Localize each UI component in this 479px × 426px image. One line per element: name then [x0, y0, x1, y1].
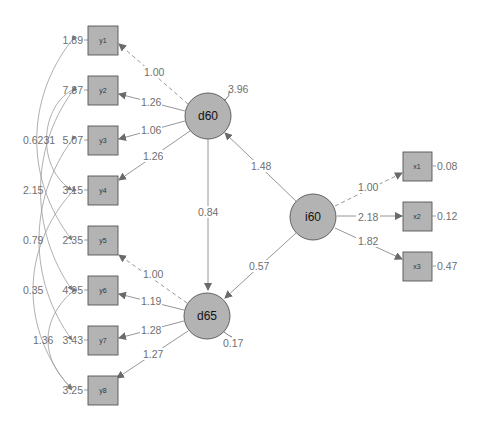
- loading-i60-x1: 1.00: [358, 181, 379, 193]
- cov-label-overlap: 0.6231: [23, 134, 55, 146]
- node-label-y8: y8: [99, 387, 107, 395]
- node-label-y6: y6: [99, 287, 107, 295]
- residual-y6: 4.95: [63, 284, 84, 296]
- node-label-y5: y5: [99, 237, 107, 245]
- cov-label-y4-y8: 0.35: [23, 284, 44, 296]
- sem-path-diagram: 0.6231 2.15 0.79 0.35 1.36 1.89 7.37 5.0…: [0, 0, 479, 426]
- loading-d65-y5: 1.00: [143, 268, 164, 280]
- residual-x1: 0.08: [437, 160, 458, 172]
- loading-d60-y3: 1.06: [141, 124, 162, 136]
- observed-left-nodes: [88, 26, 118, 405]
- node-label-x2: x2: [413, 213, 421, 220]
- node-label-x1: x1: [413, 163, 421, 170]
- node-label-d65: d65: [197, 309, 217, 323]
- node-label-y2: y2: [99, 87, 107, 95]
- cov-label-y2-y6: 2.15: [23, 184, 44, 196]
- loading-d60-y1: 1.00: [144, 66, 165, 78]
- loading-d60-y4: 1.26: [143, 150, 164, 162]
- residual-y5: 2.35: [63, 234, 84, 246]
- residual-y3: 5.07: [63, 134, 84, 146]
- structural-edges: [208, 133, 296, 298]
- residual-y2: 7.37: [63, 84, 84, 96]
- node-label-y7: y7: [99, 337, 107, 345]
- node-label-d60: d60: [198, 109, 218, 123]
- node-label-y3: y3: [99, 137, 107, 145]
- loading-i60-x2: 2.18: [358, 211, 379, 223]
- reg-d60-d65: 0.84: [198, 206, 219, 218]
- loading-d65-y8: 1.27: [143, 348, 164, 360]
- reg-i60-d60: 1.48: [251, 160, 272, 172]
- cov-label-y3-y7: 0.79: [23, 234, 44, 246]
- loading-i60-x3: 1.82: [358, 235, 379, 247]
- reg-i60-d65: 0.57: [249, 260, 270, 272]
- observed-left-labels: y1 y2 y3 y4 y5 y6 y7 y8: [99, 37, 107, 395]
- variance-d60: 3.96: [228, 83, 249, 95]
- residual-labels-left: 1.89 7.37 5.07 3.15 2.35 4.95 3.43 3.25: [63, 34, 88, 396]
- cov-label-y6-y8: 1.36: [33, 334, 54, 346]
- residual-y7: 3.43: [63, 334, 84, 346]
- variance-d65: 0.17: [223, 337, 244, 349]
- node-label-i60: i60: [305, 210, 321, 224]
- loading-d65-y6: 1.19: [141, 295, 162, 307]
- residual-y8: 3.25: [63, 384, 84, 396]
- node-label-x3: x3: [413, 263, 421, 270]
- node-label-y1: y1: [99, 37, 107, 45]
- residual-ticks-right: [432, 166, 436, 266]
- residual-y1: 1.89: [63, 34, 84, 46]
- residual-y4: 3.15: [63, 184, 84, 196]
- loading-d60-y2: 1.26: [141, 96, 162, 108]
- edge-labels-d65: 1.00 1.19 1.28 1.27: [140, 268, 164, 360]
- residual-x3: 0.47: [437, 260, 458, 272]
- loading-d65-y7: 1.28: [141, 324, 162, 336]
- edge-labels-i60: 1.00 2.18 1.82: [356, 181, 380, 247]
- node-label-y4: y4: [99, 187, 107, 195]
- residual-x2: 0.12: [437, 210, 458, 222]
